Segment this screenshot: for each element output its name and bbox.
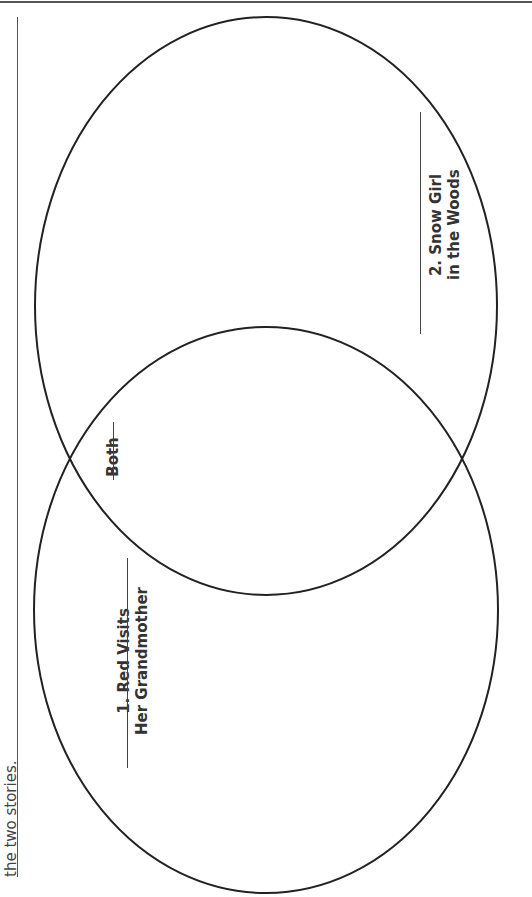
circle-1-title-line	[127, 558, 128, 768]
circle-1-outline	[34, 327, 498, 893]
venn-diagram	[0, 0, 532, 897]
circle-1-title: 1. Red Visits Her Grandmother	[115, 586, 155, 736]
circle-2-title-line	[420, 112, 421, 334]
circle-2-title: 2. Snow Girl in the Woods	[427, 170, 467, 280]
circle-2-outline	[35, 17, 497, 595]
overlap-title: Both	[104, 432, 124, 482]
overlap-title-line	[113, 422, 114, 480]
